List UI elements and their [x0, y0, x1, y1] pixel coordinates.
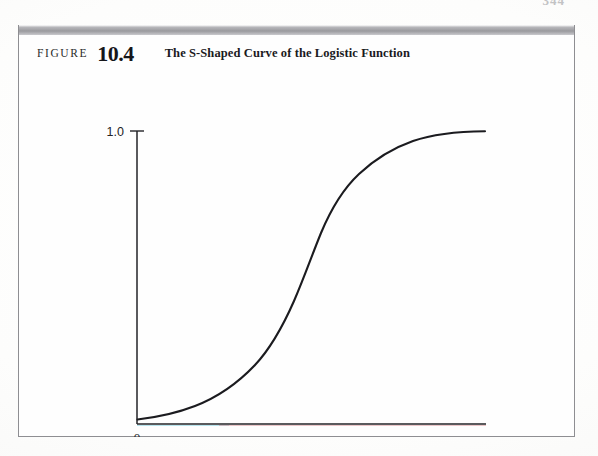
chart-svg: 1.0 0 x [19, 70, 576, 437]
figure-caption: Figure 10.4 The S-Shaped Curve of the Lo… [19, 36, 574, 70]
figure-title: The S-Shaped Curve of the Logistic Funct… [165, 46, 410, 61]
figure-frame: Figure 10.4 The S-Shaped Curve of the Lo… [18, 26, 575, 437]
figure-label: Figure [37, 47, 88, 59]
logistic-curve-chart: 1.0 0 x [19, 70, 576, 437]
logistic-curve [138, 131, 486, 419]
figure-header-band [18, 25, 575, 35]
x-axis-label-origin: 0 [134, 430, 141, 437]
x-axis-label-x: x [479, 431, 486, 437]
y-axis-label-1-0: 1.0 [107, 125, 124, 139]
figure-number: 10.4 [97, 43, 134, 65]
page-number: 344 [543, 0, 566, 9]
scanned-page: 344 Figure 10.4 The S-Shaped Curve of th… [0, 0, 598, 456]
